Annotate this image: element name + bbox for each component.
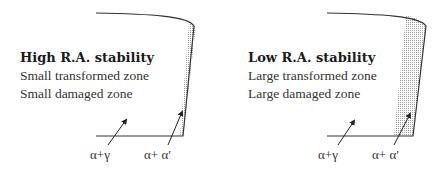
arrow-alpha-alphaprime	[168, 112, 182, 145]
panel-high-stability: High R.A. stability Small transformed zo…	[20, 13, 196, 162]
transformed-zone-small	[180, 22, 196, 136]
panel-line-2: Small damaged zone	[20, 86, 132, 101]
label-alpha-gamma: α+γ	[318, 147, 338, 162]
panel-line-1: Small transformed zone	[20, 68, 149, 83]
label-alpha-gamma: α+γ	[90, 147, 110, 162]
panel-line-1: Large transformed zone	[248, 68, 377, 83]
panel-title: Low R.A. stability	[248, 50, 376, 65]
panel-low-stability: Low R.A. stability Large transformed zon…	[248, 13, 426, 162]
arrow-alpha-gamma	[338, 121, 354, 145]
transformed-zone-large	[394, 15, 426, 136]
panel-line-2: Large damaged zone	[248, 86, 360, 101]
label-alpha-alphaprime: α+ α′	[144, 147, 171, 162]
arrow-alpha-gamma	[108, 120, 126, 145]
panel-title: High R.A. stability	[20, 50, 154, 65]
diagram-canvas: High R.A. stability Small transformed zo…	[0, 0, 444, 171]
label-alpha-alphaprime: α+ α′	[372, 147, 399, 162]
